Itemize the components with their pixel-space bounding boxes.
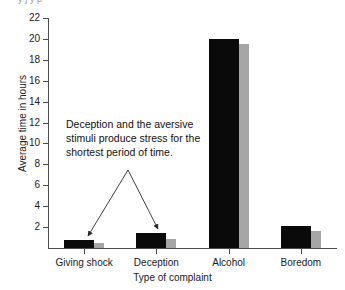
x-axis-title: Type of complaint <box>0 272 345 283</box>
x-tick <box>301 249 302 254</box>
x-category-label: Boredom <box>256 257 345 268</box>
x-tick <box>84 249 85 254</box>
annotation-line-3: shortest period of time. <box>66 145 234 159</box>
bar-deception-gray <box>166 239 176 248</box>
bar-giving-shock-gray <box>94 243 104 248</box>
bar-boredom-black <box>281 226 311 248</box>
annotation-line-1: Deception and the aversive <box>66 117 234 131</box>
x-tick <box>229 249 230 254</box>
bar-group <box>281 18 321 248</box>
annotation-text: Deception and the aversive stimuli produ… <box>66 117 234 159</box>
bar-deception-black <box>136 233 166 248</box>
bar-chart: y j y p 246810121416182022 Average time … <box>0 0 345 290</box>
bar-giving-shock-black <box>64 240 94 248</box>
bar-alcohol-gray <box>239 44 249 248</box>
annotation-line-2: stimuli produce stress for the <box>66 131 234 145</box>
y-axis-title: Average time in hours <box>17 54 28 194</box>
x-tick <box>156 249 157 254</box>
bar-boredom-gray <box>311 231 321 248</box>
